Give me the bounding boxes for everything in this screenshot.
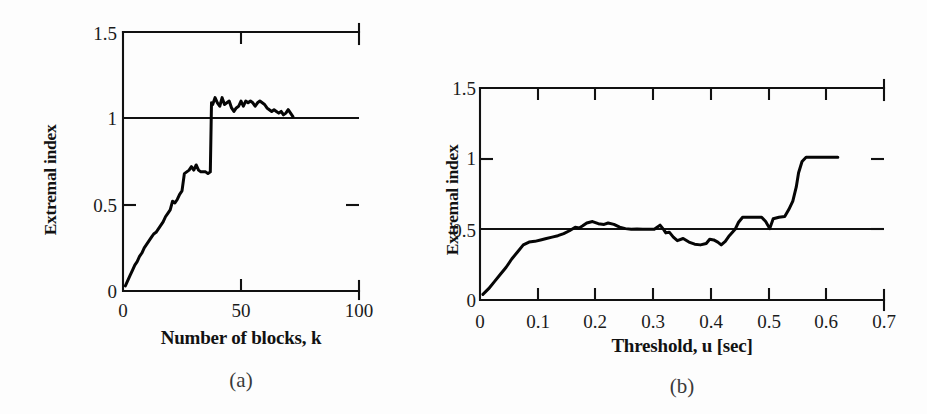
chart-b-xtick-0_7: 0.7 <box>872 311 896 332</box>
chart-b-ytick-1: 1 <box>467 148 477 169</box>
chart-b-xtick-marks <box>538 88 826 300</box>
chart-b-labels: Threshold, u [sec] (b) <box>440 335 927 414</box>
chart-b-xlabel: Threshold, u [sec] <box>611 335 752 356</box>
chart-a-ylabel: Extremal index <box>40 124 60 235</box>
chart-a-xtick-0: 0 <box>118 300 128 321</box>
chart-b-xtick-0_5: 0.5 <box>757 311 781 332</box>
figure-sheet: Extremal index 1.5 1 0.5 0 0 50 100 <box>0 0 927 414</box>
chart-b-ytick-0_5: 0.5 <box>452 220 476 241</box>
panel-b: Extremal index 1.5 1 0.5 0 0 0.1 0.2 0.3… <box>440 0 927 414</box>
chart-a-data-curve <box>125 98 293 286</box>
chart-b-axes <box>480 88 884 300</box>
chart-b-ytick-0: 0 <box>467 290 477 311</box>
chart-b-xtick-0_3: 0.3 <box>641 311 665 332</box>
chart-b-xtick-0_2: 0.2 <box>583 311 607 332</box>
chart-a-ytick-0_5: 0.5 <box>93 195 117 216</box>
chart-a-xlabel: Number of blocks, k <box>161 327 322 348</box>
chart-b-data-curve <box>483 157 838 294</box>
chart-a-ytick-1_5: 1.5 <box>93 23 117 44</box>
chart-b-ytick-1_5: 1.5 <box>452 78 476 99</box>
chart-b-ytick-marks <box>480 159 884 229</box>
chart-b-caption: (b) <box>670 374 695 398</box>
chart-b-xtick-0_4: 0.4 <box>699 311 723 332</box>
chart-a-labels: Number of blocks, k (a) <box>0 325 450 405</box>
chart-a-ytick-0: 0 <box>108 281 118 302</box>
chart-a-axes <box>123 32 359 291</box>
panel-a: Extremal index 1.5 1 0.5 0 0 50 100 <box>0 0 450 414</box>
chart-b-xtick-0: 0 <box>475 311 485 332</box>
chart-b-xtick-0_6: 0.6 <box>814 311 838 332</box>
chart-a-ytick-1: 1 <box>108 108 118 129</box>
chart-a-xtick-50: 50 <box>232 300 251 321</box>
chart-b-xtick-0_1: 0.1 <box>526 311 550 332</box>
chart-a-xtick-100: 100 <box>345 300 374 321</box>
chart-a-caption: (a) <box>229 368 252 392</box>
